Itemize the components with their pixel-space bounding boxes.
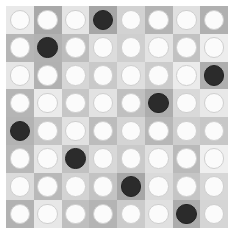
grid-cell[interactable]	[117, 117, 145, 145]
grid-cell[interactable]	[200, 34, 228, 62]
light-disc[interactable]	[65, 10, 86, 31]
light-disc[interactable]	[121, 65, 142, 86]
light-disc[interactable]	[65, 204, 86, 225]
light-disc[interactable]	[65, 93, 86, 114]
grid-cell[interactable]	[145, 62, 173, 90]
light-disc[interactable]	[10, 204, 31, 225]
dark-disc[interactable]	[37, 37, 58, 58]
light-disc[interactable]	[10, 148, 31, 169]
grid-cell[interactable]	[117, 200, 145, 228]
light-disc[interactable]	[121, 121, 142, 142]
light-disc[interactable]	[148, 37, 169, 58]
grid-cell[interactable]	[62, 89, 90, 117]
light-disc[interactable]	[176, 176, 197, 197]
grid-cell[interactable]	[145, 117, 173, 145]
grid-cell[interactable]	[89, 173, 117, 201]
grid-cell[interactable]	[6, 173, 34, 201]
grid-cell[interactable]	[145, 6, 173, 34]
light-disc[interactable]	[148, 121, 169, 142]
grid-cell[interactable]	[6, 117, 34, 145]
dark-disc[interactable]	[148, 93, 169, 114]
light-disc[interactable]	[37, 93, 58, 114]
grid-cell[interactable]	[34, 34, 62, 62]
grid-cell[interactable]	[34, 145, 62, 173]
light-disc[interactable]	[10, 65, 31, 86]
grid-cell[interactable]	[62, 173, 90, 201]
grid-cell[interactable]	[34, 200, 62, 228]
light-disc[interactable]	[176, 10, 197, 31]
grid-cell[interactable]	[89, 62, 117, 90]
light-disc[interactable]	[10, 176, 31, 197]
grid-cell[interactable]	[89, 200, 117, 228]
light-disc[interactable]	[176, 37, 197, 58]
light-disc[interactable]	[204, 10, 225, 31]
light-disc[interactable]	[65, 37, 86, 58]
light-disc[interactable]	[37, 10, 58, 31]
light-disc[interactable]	[204, 176, 225, 197]
grid-cell[interactable]	[173, 117, 201, 145]
light-disc[interactable]	[10, 37, 31, 58]
grid-cell[interactable]	[34, 173, 62, 201]
grid-cell[interactable]	[62, 200, 90, 228]
dark-disc[interactable]	[176, 204, 197, 225]
grid-cell[interactable]	[173, 200, 201, 228]
light-disc[interactable]	[148, 10, 169, 31]
light-disc[interactable]	[176, 93, 197, 114]
light-disc[interactable]	[121, 10, 142, 31]
grid-cell[interactable]	[62, 117, 90, 145]
grid-cell[interactable]	[34, 117, 62, 145]
light-disc[interactable]	[176, 121, 197, 142]
dark-disc[interactable]	[204, 65, 225, 86]
grid-cell[interactable]	[6, 34, 34, 62]
grid-cell[interactable]	[200, 89, 228, 117]
light-disc[interactable]	[148, 65, 169, 86]
grid-cell[interactable]	[173, 62, 201, 90]
light-disc[interactable]	[121, 37, 142, 58]
grid-cell[interactable]	[89, 6, 117, 34]
light-disc[interactable]	[148, 176, 169, 197]
light-disc[interactable]	[93, 93, 114, 114]
light-disc[interactable]	[37, 204, 58, 225]
light-disc[interactable]	[37, 176, 58, 197]
grid-cell[interactable]	[89, 117, 117, 145]
grid-cell[interactable]	[173, 34, 201, 62]
grid-cell[interactable]	[173, 89, 201, 117]
grid-cell[interactable]	[145, 145, 173, 173]
grid-cell[interactable]	[200, 6, 228, 34]
grid-cell[interactable]	[200, 62, 228, 90]
light-disc[interactable]	[93, 121, 114, 142]
grid-cell[interactable]	[89, 34, 117, 62]
light-disc[interactable]	[93, 176, 114, 197]
grid-cell[interactable]	[6, 62, 34, 90]
grid-cell[interactable]	[34, 89, 62, 117]
grid-cell[interactable]	[117, 173, 145, 201]
grid-cell[interactable]	[62, 34, 90, 62]
light-disc[interactable]	[65, 121, 86, 142]
grid-cell[interactable]	[200, 200, 228, 228]
grid-cell[interactable]	[145, 34, 173, 62]
grid-cell[interactable]	[6, 145, 34, 173]
dark-disc[interactable]	[10, 121, 31, 142]
light-disc[interactable]	[148, 148, 169, 169]
grid-cell[interactable]	[173, 145, 201, 173]
grid-cell[interactable]	[117, 145, 145, 173]
grid-cell[interactable]	[117, 62, 145, 90]
light-disc[interactable]	[93, 148, 114, 169]
grid-cell[interactable]	[62, 145, 90, 173]
grid-cell[interactable]	[200, 173, 228, 201]
grid-cell[interactable]	[117, 89, 145, 117]
dark-disc[interactable]	[121, 176, 142, 197]
grid-cell[interactable]	[173, 6, 201, 34]
grid-cell[interactable]	[145, 89, 173, 117]
light-disc[interactable]	[176, 65, 197, 86]
grid-cell[interactable]	[173, 173, 201, 201]
light-disc[interactable]	[93, 37, 114, 58]
grid-cell[interactable]	[6, 6, 34, 34]
grid-cell[interactable]	[6, 200, 34, 228]
light-disc[interactable]	[65, 65, 86, 86]
light-disc[interactable]	[10, 93, 31, 114]
grid-cell[interactable]	[34, 6, 62, 34]
light-disc[interactable]	[204, 93, 225, 114]
grid-cell[interactable]	[89, 145, 117, 173]
dark-disc[interactable]	[93, 10, 114, 31]
